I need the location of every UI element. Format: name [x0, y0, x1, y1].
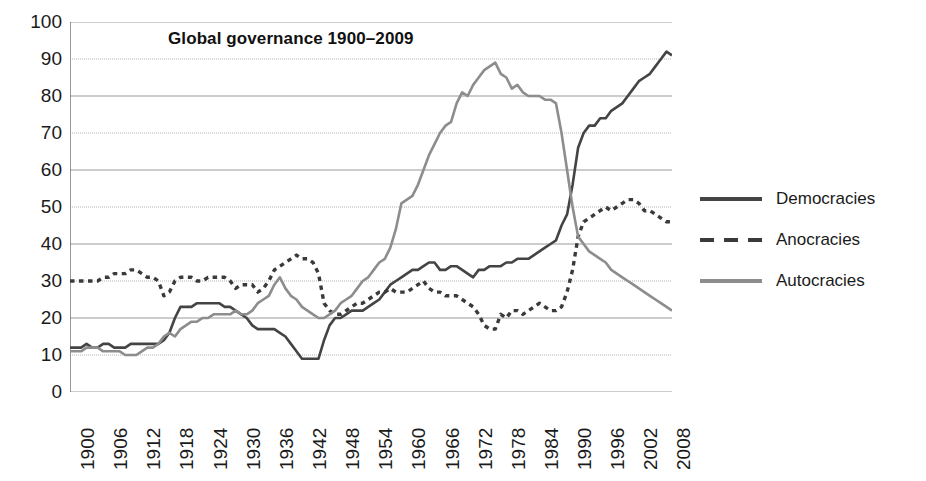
x-axis-tick-label: 1930 [244, 428, 263, 470]
y-axis-tick-label: 40 [18, 234, 62, 253]
y-axis-tick-labels: 1009080706050403020100 [14, 0, 62, 420]
x-axis-tick-label: 1906 [111, 428, 130, 470]
x-axis-tick-label: 1924 [211, 428, 230, 470]
x-axis-tick-label: 1936 [277, 428, 296, 470]
x-axis-tick-label: 1990 [575, 428, 594, 470]
x-axis-tick-label: 2008 [674, 428, 693, 470]
y-axis-tick-label: 10 [18, 345, 62, 364]
x-axis-tick-label: 1912 [144, 428, 163, 470]
y-axis-tick-label: 80 [18, 86, 62, 105]
x-axis-tick-label: 1918 [177, 428, 196, 470]
x-axis-tick-label: 1996 [608, 428, 627, 470]
x-axis-tick-label: 1984 [542, 428, 561, 470]
x-axis-tick-label: 1978 [509, 428, 528, 470]
legend-item-democracies[interactable]: Democracies [700, 178, 926, 219]
plot-area [70, 22, 672, 392]
x-axis-tick-label: 1966 [443, 428, 462, 470]
y-axis-tick-label: 60 [18, 160, 62, 179]
x-axis-tick-labels: 1900190619121918192419301936194219481954… [0, 398, 926, 481]
y-axis-tick-label: 30 [18, 271, 62, 290]
y-axis-tick-label: 100 [18, 12, 62, 31]
x-axis-tick-label: 1942 [310, 428, 329, 470]
legend-item-anocracies[interactable]: Anocracies [700, 219, 926, 260]
x-axis-tick-label: 1954 [376, 428, 395, 470]
legend-swatch-autocracies-icon [700, 274, 762, 288]
y-axis-tick-label: 20 [18, 308, 62, 327]
x-axis-tick-label: 1972 [476, 428, 495, 470]
legend-item-autocracies[interactable]: Autocracies [700, 260, 926, 301]
x-axis-tick-label: 1948 [343, 428, 362, 470]
legend-label: Democracies [776, 190, 875, 207]
x-axis-tick-label: 2002 [641, 428, 660, 470]
series-line-anocracies [70, 200, 672, 330]
y-axis-tick-label: 70 [18, 123, 62, 142]
series-line-democracies [70, 52, 672, 359]
chart-figure: Global governance 1900–2009 100908070605… [0, 0, 926, 481]
series-line-autocracies [70, 63, 672, 355]
y-axis-tick-label: 50 [18, 197, 62, 216]
x-axis-tick-label: 1960 [409, 428, 428, 470]
y-axis-tick-label: 90 [18, 49, 62, 68]
chart-legend: DemocraciesAnocraciesAutocracies [700, 178, 926, 301]
chart-plot-svg [70, 22, 672, 392]
legend-label: Anocracies [776, 231, 860, 248]
x-axis-tick-label: 1900 [78, 428, 97, 470]
legend-label: Autocracies [776, 272, 865, 289]
legend-swatch-democracies-icon [700, 192, 762, 206]
legend-swatch-anocracies-icon [700, 233, 762, 247]
